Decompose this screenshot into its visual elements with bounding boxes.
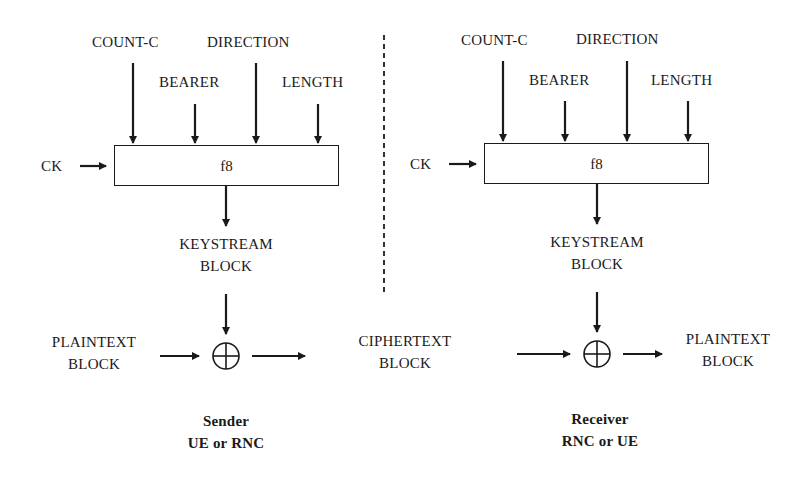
label-plaintext-output: PLAINTEXT BLOCK [678,328,778,372]
f8-label-receiver: f8 [485,155,708,172]
label-count-c-receiver: COUNT-C [461,29,528,51]
label-direction-receiver: DIRECTION [576,28,659,50]
label-length-sender: LENGTH [282,71,343,93]
f8-box-receiver: f8 [484,143,709,184]
label-plaintext-input: PLAINTEXT BLOCK [44,331,144,375]
label-keystream-sender: KEYSTREAM BLOCK [171,233,281,277]
label-direction-sender: DIRECTION [207,31,290,53]
caption-receiver: Receiver RNC or UE [545,408,655,452]
f8-box-sender: f8 [114,145,339,186]
label-bearer-receiver: BEARER [529,69,589,91]
label-count-c-sender: COUNT-C [92,31,159,53]
label-ciphertext: CIPHERTEXT BLOCK [350,330,460,374]
f8-label-sender: f8 [115,157,338,174]
caption-sender: Sender UE or RNC [176,410,276,454]
label-bearer-sender: BEARER [159,71,219,93]
label-length-receiver: LENGTH [651,69,712,91]
xor-icon-receiver [584,341,610,367]
label-ck-sender: CK [41,155,62,177]
label-ck-receiver: CK [410,153,431,175]
label-keystream-receiver: KEYSTREAM BLOCK [542,231,652,275]
xor-icon-sender [213,343,239,369]
